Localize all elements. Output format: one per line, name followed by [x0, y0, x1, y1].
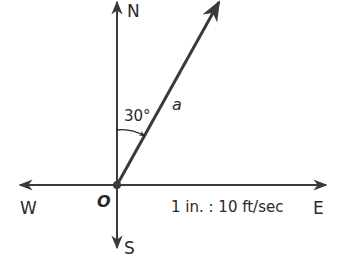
angle-label: 30° [124, 107, 151, 125]
vector-a-arrow [117, 2, 219, 185]
south-label: S [124, 238, 135, 258]
scale-label: 1 in. : 10 ft/sec [171, 198, 283, 216]
angle-arc-icon [117, 130, 145, 136]
origin-point [113, 181, 121, 189]
west-label: W [20, 198, 37, 218]
vector-diagram: N S E W O a 30° 1 in. : 10 ft/sec [0, 0, 347, 266]
vector-label: a [172, 95, 182, 114]
origin-label: O [97, 192, 111, 211]
east-label: E [313, 198, 324, 218]
north-label: N [127, 1, 140, 21]
